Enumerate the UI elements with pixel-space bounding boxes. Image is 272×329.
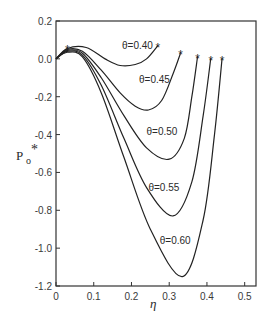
x-tick-label: 0.1 — [87, 291, 101, 302]
x-tick-label: 0 — [53, 291, 59, 302]
y-axis-title-base: P — [16, 148, 23, 163]
curve-label: θ=0.55 — [148, 182, 179, 193]
endpoint-star-icon: * — [195, 52, 200, 66]
y-tick-label: -1.2 — [35, 281, 53, 292]
endpoint-star-icon: * — [156, 41, 161, 55]
x-axis-title: η — [150, 296, 156, 311]
x-tick-label: 0.4 — [200, 291, 214, 302]
y-tick-label: 0.2 — [38, 16, 52, 27]
y-tick-label: -0.2 — [35, 92, 53, 103]
y-tick-label: -0.6 — [35, 167, 53, 178]
curve-label: θ=0.60 — [160, 235, 191, 246]
endpoint-star-icon: * — [208, 54, 213, 68]
y-tick-label: 0.0 — [38, 54, 52, 65]
x-tick-label: 0.3 — [162, 291, 176, 302]
y-tick-label: -1.0 — [35, 243, 53, 254]
plot-frame — [56, 21, 256, 286]
y-axis-title: P o* — [16, 142, 38, 166]
y-axis-title-star: * — [31, 142, 38, 157]
curve-label: θ=0.40 — [122, 40, 153, 51]
curve-theta-4 — [56, 52, 222, 277]
y-tick-label: -0.4 — [35, 130, 53, 141]
endpoint-star-icon: * — [220, 54, 225, 68]
x-tick-label: 0.5 — [238, 291, 252, 302]
curves: *θ=0.40*θ=0.45*θ=0.50*θ=0.55*θ=0.60* — [56, 40, 225, 276]
y-tick-label: -0.8 — [35, 205, 53, 216]
x-tick-label: 0.2 — [125, 291, 139, 302]
start-star-icon: * — [65, 43, 70, 57]
curve-label: θ=0.45 — [139, 74, 170, 85]
chart: 0.20.0-0.2-0.4-0.6-0.8-1.0-1.2 00.10.20.… — [0, 0, 272, 329]
curve-theta-3 — [56, 51, 211, 216]
endpoint-star-icon: * — [178, 48, 183, 62]
curve-label: θ=0.50 — [147, 126, 178, 137]
